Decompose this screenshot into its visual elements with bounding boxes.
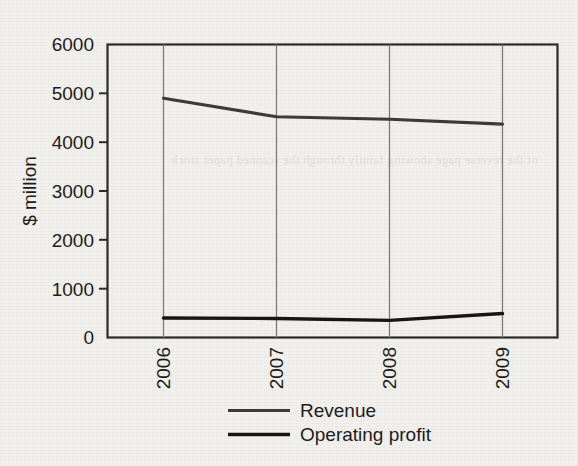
ytick-label-3000: 3000 [52,181,94,202]
line-chart: 6000 5000 4000 3000 2000 1000 0 $ millio… [0,0,578,466]
xtick-label-2008: 2008 [379,347,400,389]
xtick-label-2007: 2007 [266,347,287,389]
plot-frame [108,45,558,338]
ytick-label-4000: 4000 [52,132,94,153]
data-series-group [164,98,503,320]
xtick-label-2009: 2009 [492,347,513,389]
series-line-revenue [164,98,503,124]
ytick-label-6000: 6000 [52,34,94,55]
ytick-label-5000: 5000 [52,83,94,104]
series-line-operating-profit [164,314,503,321]
chart-figure: of the reverse page showing faintly thro… [0,0,578,466]
xtick-label-2006: 2006 [153,347,174,389]
ytick-label-2000: 2000 [52,230,94,251]
chart-legend: Revenue Operating profit [228,400,432,445]
x-axis-tick-labels: 2006 2007 2008 2009 [153,347,513,389]
gridlines-vertical [164,45,503,338]
y-axis-ticks [99,93,108,288]
y-axis-tick-labels: 6000 5000 4000 3000 2000 1000 0 [52,34,94,348]
ytick-label-0: 0 [83,327,94,348]
y-axis-title: $ million [19,156,40,226]
ytick-label-1000: 1000 [52,279,94,300]
legend-label-operating-profit: Operating profit [300,424,432,445]
legend-label-revenue: Revenue [300,400,376,421]
